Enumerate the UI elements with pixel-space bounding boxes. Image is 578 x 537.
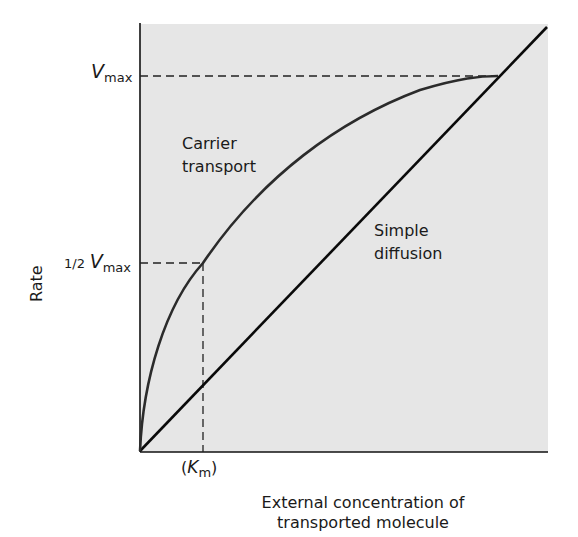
x-axis-label: External concentration oftransported mol… [238,493,488,533]
carrier-transport-label: Carriertransport [182,132,256,178]
simple-diffusion-label: Simplediffusion [374,219,442,265]
y-axis-label: Rate [27,265,46,302]
km-label: (Km) [181,458,217,482]
half-vmax-label: 1/2 Vmax [64,252,131,277]
vmax-label: Vmax [91,62,132,87]
